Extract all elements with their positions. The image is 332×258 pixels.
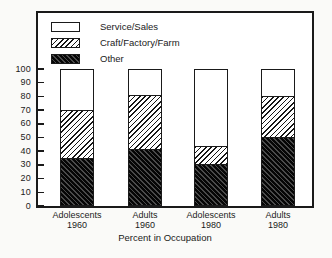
y-tick-label: 70 <box>0 105 31 116</box>
legend-swatch-dark-backslash-hatch <box>51 54 80 64</box>
bar-segment-other <box>129 150 161 205</box>
x-category-label: Adults1980 <box>238 211 318 230</box>
bar-segment-craft-factory-farm <box>262 97 294 138</box>
y-tick-label: 20 <box>0 173 31 184</box>
y-tick-label: 100 <box>0 64 31 75</box>
y-tick-label: 30 <box>0 159 31 170</box>
y-tick-label: 80 <box>0 91 31 102</box>
bar-segment-service-sales <box>61 70 93 111</box>
y-tick-mark <box>36 164 44 166</box>
bar-segment-craft-factory-farm <box>129 96 161 150</box>
bar-segment-service-sales <box>195 70 227 147</box>
bar-segment-craft-factory-farm <box>61 111 93 160</box>
legend: Service/SalesCraft/Factory/FarmOther <box>51 21 180 64</box>
y-tick-mark <box>36 137 44 139</box>
plot-frame: Service/SalesCraft/Factory/FarmOther <box>36 11 314 208</box>
legend-swatch-white <box>51 22 80 32</box>
bar-segment-other <box>61 159 93 205</box>
stacked-bar-adults-1960 <box>128 69 162 206</box>
bar-segment-service-sales <box>129 70 161 96</box>
y-tick-mark <box>36 205 44 207</box>
legend-swatch-light-slash-hatch <box>51 38 80 48</box>
legend-item: Craft/Factory/Farm <box>51 37 180 48</box>
stacked-bar-adolescents-1960 <box>60 69 94 206</box>
y-tick-mark <box>36 192 44 194</box>
y-tick-mark <box>36 68 44 70</box>
bar-segment-craft-factory-farm <box>195 147 227 165</box>
x-axis-title: Percent in Occupation <box>26 232 304 243</box>
bar-segment-other <box>262 138 294 206</box>
y-tick-label: 60 <box>0 118 31 129</box>
chart-figure: Service/SalesCraft/Factory/FarmOther 010… <box>0 0 332 258</box>
bar-segment-service-sales <box>262 70 294 97</box>
y-tick-label: 10 <box>0 187 31 198</box>
y-tick-mark <box>36 150 44 152</box>
y-tick-mark <box>36 178 44 180</box>
stacked-bar-adults-1980 <box>261 69 295 206</box>
legend-label: Craft/Factory/Farm <box>100 37 180 48</box>
bar-segment-other <box>195 165 227 206</box>
legend-item: Other <box>51 53 180 64</box>
y-tick-label: 0 <box>0 201 31 212</box>
y-tick-label: 90 <box>0 77 31 88</box>
y-tick-label: 50 <box>0 132 31 143</box>
legend-label: Service/Sales <box>100 21 158 32</box>
legend-item: Service/Sales <box>51 21 180 32</box>
y-tick-mark <box>36 82 44 84</box>
x-category-line2: 1980 <box>238 221 318 231</box>
stacked-bar-adolescents-1980 <box>194 69 228 206</box>
y-tick-mark <box>36 123 44 125</box>
y-tick-mark <box>36 109 44 111</box>
legend-label: Other <box>100 53 124 64</box>
y-tick-mark <box>36 96 44 98</box>
y-tick-label: 40 <box>0 146 31 157</box>
